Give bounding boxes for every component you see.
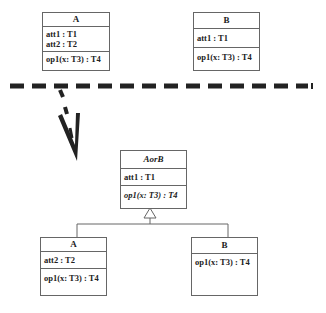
attributes-section: att1 : T1 [194, 29, 259, 48]
refactor-arrow-icon [58, 90, 80, 161]
class-box-aorb[interactable]: AorB att1 : T1 op1(x: T3) : T4 [120, 150, 187, 209]
class-name: B [194, 13, 259, 29]
abstract-operation: op1(x: T3) : T4 [124, 190, 183, 200]
attributes-section: att1 : T1 att2 : T2 [43, 27, 109, 52]
operations-section: op1(x: T3) : T4 [41, 269, 106, 287]
attribute: att1 : T1 [124, 172, 183, 182]
class-name: A [43, 13, 109, 27]
operations-section: op1(x: T3) : T4 [194, 48, 259, 66]
separator-end-mark [311, 83, 313, 89]
attribute: att1 : T1 [197, 33, 256, 43]
operation: op1(x: T3) : T4 [44, 273, 103, 283]
attribute: att1 : T1 [46, 29, 106, 39]
operations-section: op1(x: T3) : T4 [43, 52, 109, 66]
inheritance-triangle-icon [144, 208, 156, 218]
class-name: A [41, 238, 106, 252]
class-name: AorB [121, 151, 186, 169]
attribute: att2 : T2 [46, 39, 106, 49]
operations-section: op1(x: T3) : T4 [192, 254, 257, 270]
attributes-section: att2 : T2 [41, 252, 106, 269]
class-box-top-b[interactable]: B att1 : T1 op1(x: T3) : T4 [193, 12, 260, 71]
class-box-top-a[interactable]: A att1 : T1 att2 : T2 op1(x: T3) : T4 [42, 12, 110, 71]
attributes-section: att1 : T1 [121, 169, 186, 186]
operation: op1(x: T3) : T4 [46, 54, 106, 64]
class-name: B [192, 238, 257, 254]
operations-section: op1(x: T3) : T4 [121, 186, 186, 204]
class-box-bottom-a[interactable]: A att2 : T2 op1(x: T3) : T4 [40, 237, 107, 296]
class-box-bottom-b[interactable]: B op1(x: T3) : T4 [191, 237, 258, 296]
attribute: att2 : T2 [44, 255, 103, 265]
generalization-connector [77, 208, 228, 237]
operation: op1(x: T3) : T4 [195, 257, 254, 267]
operation: op1(x: T3) : T4 [197, 52, 256, 62]
